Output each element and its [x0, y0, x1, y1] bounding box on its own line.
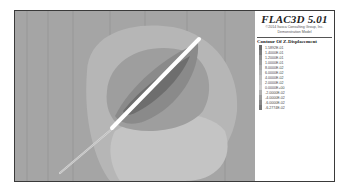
legend-label: 1.0000E-01 [265, 61, 284, 65]
legend-label: 6.0000E-02 [265, 71, 284, 75]
legend-label: -4.0000E-02 [265, 96, 285, 100]
contour-plot-graphic [15, 11, 255, 181]
legend-label: 1.2000E-01 [265, 56, 284, 60]
figure-frame: FLAC3D 5.01 ©2014 Itasca Consulting Grou… [14, 10, 335, 182]
contour-plot [15, 11, 255, 181]
legend-label: 1.5892E-01 [265, 46, 284, 50]
legend-item: -6.2774E-02 [255, 105, 334, 110]
app-title: FLAC3D 5.01 [255, 13, 334, 25]
model-label: Demonstration Model [255, 30, 334, 35]
legend-label: -2.0000E-02 [265, 91, 285, 95]
legend-label: -6.0000E-02 [265, 101, 285, 105]
contour-title: Contour Of Z-Displacement [255, 39, 334, 44]
legend-divider [257, 37, 332, 38]
legend-label: 0.0000E+00 [265, 86, 285, 90]
legend-label: 4.0000E-02 [265, 76, 284, 80]
legend-items: 1.5892E-01 1.4000E-01 1.2000E-01 1.0000E… [255, 45, 334, 110]
legend-panel: FLAC3D 5.01 ©2014 Itasca Consulting Grou… [255, 11, 334, 181]
legend-label: 1.4000E-01 [265, 51, 284, 55]
legend-swatch [259, 105, 262, 110]
legend-label: -6.2774E-02 [265, 106, 285, 110]
legend-label: 2.0000E-02 [265, 81, 284, 85]
legend-label: 8.0000E-02 [265, 66, 284, 70]
